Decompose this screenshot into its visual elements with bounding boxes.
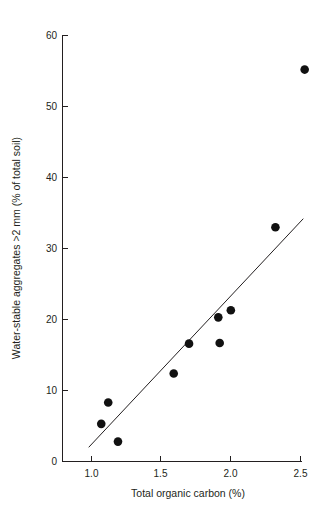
data-point — [214, 313, 223, 322]
y-tick-label: 40 — [46, 172, 58, 183]
y-axis-ticks — [63, 36, 69, 391]
y-tick-label: 60 — [46, 30, 58, 41]
x-tick-label: 2.0 — [224, 468, 238, 479]
x-axis-ticks — [92, 456, 301, 462]
x-tick-label: 2.5 — [294, 468, 308, 479]
y-tick-label: 10 — [46, 385, 58, 396]
y-tick-label: 50 — [46, 101, 58, 112]
data-point — [114, 437, 123, 446]
data-point — [104, 398, 113, 407]
data-point — [169, 369, 178, 378]
data-point — [215, 339, 224, 348]
y-tick-label: 20 — [46, 314, 58, 325]
x-tick-label: 1.5 — [154, 468, 168, 479]
data-point — [97, 420, 106, 429]
data-point — [271, 223, 280, 232]
regression-trendline — [89, 219, 304, 448]
x-axis-tick-labels: 1.0 1.5 2.0 2.5 — [85, 468, 308, 479]
data-point — [227, 306, 236, 315]
y-axis-title: Water-stable aggregates >2 mm (% of tota… — [10, 137, 22, 359]
scatter-plot-svg: 60 50 40 30 20 10 0 1.0 1.5 2.0 2.5 Tota… — [0, 0, 321, 517]
y-tick-label: 0 — [51, 456, 57, 467]
data-points-group — [97, 65, 309, 446]
chart-figure: 60 50 40 30 20 10 0 1.0 1.5 2.0 2.5 Tota… — [0, 0, 321, 517]
data-point — [185, 339, 194, 348]
x-axis-title: Total organic carbon (%) — [131, 487, 245, 499]
data-point — [300, 65, 309, 74]
y-axis-tick-labels: 60 50 40 30 20 10 0 — [46, 30, 58, 467]
x-tick-label: 1.0 — [85, 468, 99, 479]
y-tick-label: 30 — [46, 243, 58, 254]
